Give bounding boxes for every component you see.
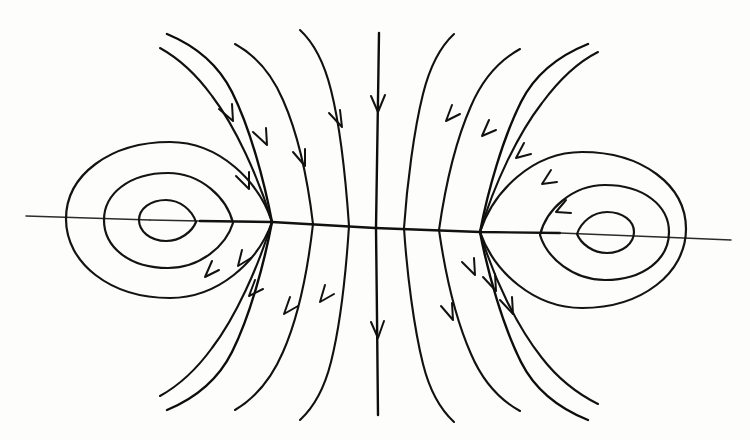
horizontal-axis-faint-left-mid bbox=[150, 220, 200, 221]
phase-portrait-figure bbox=[0, 0, 750, 440]
phase-portrait-canvas bbox=[0, 0, 750, 440]
